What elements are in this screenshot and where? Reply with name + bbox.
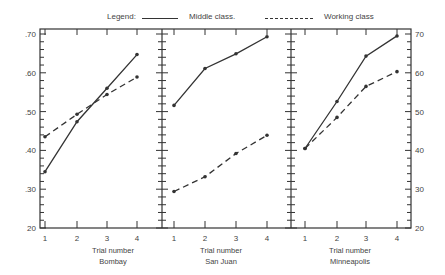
xlabel-minneapolis: Trial number Minneapolis bbox=[300, 245, 400, 267]
data-point bbox=[203, 175, 207, 179]
data-point bbox=[265, 133, 269, 137]
x-tick-label: 3 bbox=[105, 234, 110, 243]
x-tick-label: 1 bbox=[172, 234, 177, 243]
data-point bbox=[203, 67, 207, 71]
middle-class-line bbox=[174, 37, 267, 106]
x-tick-label: 4 bbox=[395, 234, 400, 243]
data-point bbox=[75, 113, 79, 117]
y-tick-label-left: .70 bbox=[25, 30, 37, 39]
data-point bbox=[135, 53, 139, 57]
middle-class-line bbox=[305, 36, 397, 149]
xlabel-san-juan: Trial number San Juan bbox=[171, 245, 271, 267]
panel-title-san-juan: San Juan bbox=[171, 256, 271, 267]
middle-class-line bbox=[45, 55, 137, 172]
working-class-line bbox=[305, 72, 397, 149]
data-point bbox=[43, 170, 47, 174]
x-tick-label: 4 bbox=[265, 234, 270, 243]
y-tick-label-right: 60 bbox=[415, 69, 424, 78]
x-tick-label: 4 bbox=[135, 234, 140, 243]
xlabel-text: Trial number bbox=[171, 245, 271, 256]
data-point bbox=[43, 135, 47, 139]
y-tick-label-left: .60 bbox=[25, 69, 37, 78]
data-point bbox=[395, 70, 399, 74]
xlabel-bombay: Trial number Bombay bbox=[63, 245, 163, 267]
y-tick-label-left: .40 bbox=[25, 146, 37, 155]
working-class-line bbox=[174, 135, 267, 191]
x-tick-label: 2 bbox=[203, 234, 208, 243]
y-tick-label-right: 40 bbox=[415, 146, 424, 155]
y-tick-label-right: 70 bbox=[415, 30, 424, 39]
data-point bbox=[395, 34, 399, 38]
xlabel-text: Trial number bbox=[63, 245, 163, 256]
x-tick-label: 1 bbox=[43, 234, 48, 243]
y-tick-label-right: 30 bbox=[415, 185, 424, 194]
data-point bbox=[105, 87, 109, 91]
data-point bbox=[335, 100, 339, 104]
data-point bbox=[75, 120, 79, 124]
y-tick-label-right: 50 bbox=[415, 108, 424, 117]
data-point bbox=[364, 85, 368, 89]
y-tick-label-left: .30 bbox=[25, 185, 37, 194]
x-tick-label: 2 bbox=[335, 234, 340, 243]
y-tick-label-right: 20 bbox=[415, 224, 424, 233]
data-point bbox=[364, 54, 368, 58]
data-point bbox=[303, 147, 307, 151]
data-point bbox=[135, 75, 139, 79]
data-point bbox=[335, 116, 339, 120]
x-tick-label: 3 bbox=[234, 234, 239, 243]
xlabel-text: Trial number bbox=[300, 245, 400, 256]
data-point bbox=[172, 190, 176, 194]
x-tick-label: 1 bbox=[303, 234, 308, 243]
data-point bbox=[234, 52, 238, 56]
data-point bbox=[234, 152, 238, 156]
data-point bbox=[105, 93, 109, 97]
panel-title-bombay: Bombay bbox=[63, 256, 163, 267]
y-tick-label-left: .50 bbox=[25, 108, 37, 117]
x-tick-label: 3 bbox=[364, 234, 369, 243]
data-point bbox=[265, 35, 269, 39]
data-point bbox=[172, 104, 176, 108]
y-tick-label-left: 20 bbox=[27, 224, 36, 233]
line-chart: .7070.6060.5050.4040.3030202012341234123… bbox=[0, 0, 445, 275]
x-tick-label: 2 bbox=[75, 234, 80, 243]
panel-title-minneapolis: Minneapolis bbox=[300, 256, 400, 267]
